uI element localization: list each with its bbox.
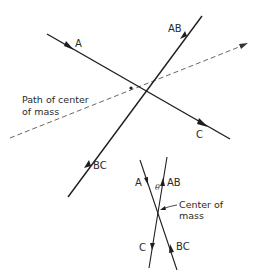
com-arrowhead-icon [239, 43, 248, 49]
collision-diagram: A AB C BC Path of center of mass A AB θ … [0, 0, 254, 278]
center-of-mass-path [10, 45, 244, 138]
inset-trajectory-c-ab [149, 157, 167, 268]
inset-label-theta: θ [155, 183, 160, 192]
arrow-c-icon [197, 118, 208, 127]
inset-label-bc: BC [176, 241, 190, 252]
label-ab: AB [168, 23, 182, 34]
inset-diagram: A AB θ C BC Center of mass [135, 157, 224, 270]
arrow-a-icon [64, 41, 74, 50]
inset-arrow-ab-icon [160, 178, 165, 186]
inset-label-ab: AB [167, 177, 181, 188]
inset-arrow-a-icon [144, 177, 148, 185]
label-com-path-2: of mass [22, 106, 59, 117]
label-a: A [75, 38, 82, 49]
inset-label-a: A [135, 177, 142, 188]
com-pointer-arrow-icon [160, 206, 166, 210]
inset-arrow-bc-icon [169, 244, 174, 253]
inset-label-c: C [139, 242, 146, 253]
label-bc: BC [93, 160, 107, 171]
collision-point [129, 86, 132, 89]
inset-label-com-2: mass [179, 210, 204, 221]
label-com-path-1: Path of center [22, 94, 89, 105]
label-c: C [196, 129, 203, 140]
main-diagram: A AB C BC Path of center of mass [10, 16, 248, 197]
inset-label-com-1: Center of [179, 199, 224, 210]
